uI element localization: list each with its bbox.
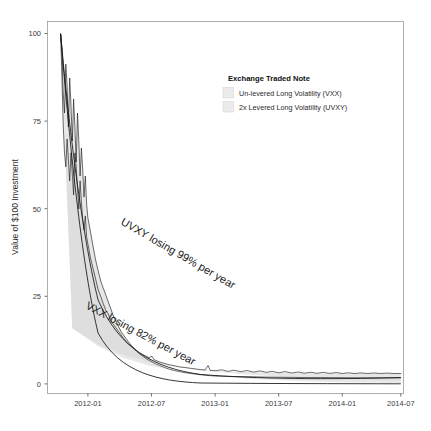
legend-title: Exchange Traded Note bbox=[228, 74, 310, 83]
x-tick-label: 2012-01 bbox=[74, 399, 102, 408]
volatility-etn-decay-chart: 100 75 50 25 0 Value of $100 Investment bbox=[0, 0, 431, 431]
y-tick-label: 75 bbox=[33, 117, 41, 126]
y-tick-label: 100 bbox=[28, 29, 41, 38]
x-tick-label: 2014-01 bbox=[329, 399, 357, 408]
x-tick-label: 2014-07 bbox=[387, 399, 415, 408]
x-tick-label: 2013-01 bbox=[201, 399, 229, 408]
y-tick-label: 25 bbox=[33, 292, 41, 301]
y-tick-label: 50 bbox=[33, 205, 41, 214]
legend-item-vxx[interactable]: Un-levered Long Volatility (VXX) bbox=[223, 88, 342, 99]
y-tick-label: 0 bbox=[37, 380, 41, 389]
legend-label-uvxy: 2x Levered Long Volatility (UVXY) bbox=[239, 103, 347, 112]
legend-label-vxx: Un-levered Long Volatility (VXX) bbox=[239, 89, 342, 98]
y-axis-title: Value of $100 Investment bbox=[10, 158, 20, 254]
legend-swatch-vxx-icon bbox=[223, 88, 234, 99]
chart-figure: 100 75 50 25 0 Value of $100 Investment bbox=[0, 0, 431, 431]
x-tick-label: 2013-07 bbox=[265, 399, 293, 408]
legend-item-uvxy[interactable]: 2x Levered Long Volatility (UVXY) bbox=[223, 102, 347, 113]
legend-swatch-uvxy-icon bbox=[223, 102, 234, 113]
x-tick-label: 2012-07 bbox=[138, 399, 166, 408]
